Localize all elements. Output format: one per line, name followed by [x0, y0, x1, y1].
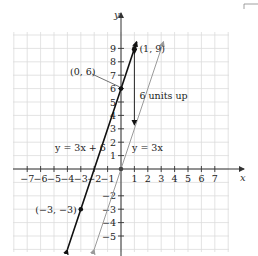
x-tick-label: 5: [185, 173, 191, 184]
y-tick-label: 8: [110, 56, 116, 67]
label-line-y-3x-plus-6: y = 3x + 6: [54, 142, 106, 153]
y-tick-label: 3: [110, 123, 116, 134]
y-tick-label: 1: [110, 150, 116, 161]
x-tick-label: 7: [212, 173, 218, 184]
x-axis-label: x: [240, 172, 246, 183]
corner-mark: [244, 4, 258, 9]
x-tick-label: −1: [101, 173, 115, 184]
graph-figure: xy −7−6−5−4−3−2−11234567−5−4−3−212345678…: [0, 0, 258, 256]
label-point-0-6: (0, 6): [70, 66, 96, 77]
coordinate-plane: xy −7−6−5−4−3−2−11234567−5−4−3−212345678…: [0, 0, 258, 256]
x-tick-label: −3: [74, 173, 88, 184]
label-line-y-3x: y = 3x: [131, 142, 163, 153]
y-tick-label: −2: [102, 190, 116, 201]
x-tick-label: −5: [47, 173, 61, 184]
x-tick-label: −7: [20, 173, 34, 184]
label-shift: 6 units up: [139, 90, 187, 101]
data-point: [119, 86, 124, 91]
axes: xy: [13, 9, 246, 256]
x-tick-label: 1: [131, 173, 137, 184]
label-point-1-9: (1, 9): [139, 43, 165, 54]
data-point: [132, 46, 137, 51]
x-tick-label: 4: [172, 173, 178, 184]
data-point: [119, 167, 124, 172]
x-tick-label: 3: [158, 173, 164, 184]
x-tick-label: −6: [34, 173, 48, 184]
y-axis-label: y: [113, 9, 120, 20]
x-tick-label: −4: [60, 173, 74, 184]
x-tick-label: 2: [145, 173, 151, 184]
data-point: [79, 207, 84, 212]
y-tick-label: 7: [110, 70, 116, 81]
y-tick-label: −5: [102, 231, 116, 242]
x-tick-label: 6: [198, 173, 204, 184]
label-point-neg3-neg3: (−3, −3): [35, 204, 76, 215]
y-tick-label: 2: [110, 137, 116, 148]
y-tick-label: 9: [110, 43, 116, 54]
